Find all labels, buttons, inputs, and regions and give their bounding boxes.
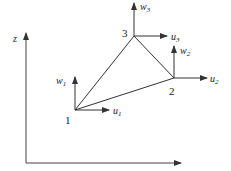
z-axis-label: z xyxy=(12,33,17,44)
u2-label: u2 xyxy=(210,73,219,86)
w3-label: w3 xyxy=(140,1,151,14)
w1-label: w1 xyxy=(56,75,66,88)
node-3-label: 3 xyxy=(122,27,128,39)
w2-label: w2 xyxy=(180,45,191,58)
u1-label: u1 xyxy=(113,105,122,118)
node-2: 2 w2 u2 xyxy=(169,45,219,97)
global-axes: z xyxy=(12,33,181,163)
u3-label: u3 xyxy=(171,31,180,44)
node-1-label: 1 xyxy=(65,114,71,126)
node-3: 3 w3 u3 xyxy=(122,1,180,44)
node-2-label: 2 xyxy=(169,85,175,97)
triangle-element-diagram: z 1 w1 u1 2 w2 u2 3 w3 u3 xyxy=(0,0,231,171)
node-1: 1 w1 u1 xyxy=(56,75,122,126)
triangle-element xyxy=(75,36,174,110)
